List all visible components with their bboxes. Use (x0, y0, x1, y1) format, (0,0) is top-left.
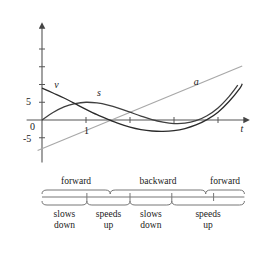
direction-bracket-1 (110, 190, 205, 194)
direction-bracket-0 (42, 190, 110, 194)
acceleration-line (38, 66, 243, 150)
y-tick-label-0: 0 (30, 122, 35, 132)
speed-bracket-1 (87, 201, 130, 205)
speed-band-line1-3: speeds (180, 209, 236, 220)
direction-bracket-2 (206, 190, 245, 194)
direction-band-label-1: backward (128, 177, 188, 187)
t-axis-label: t (240, 124, 243, 134)
direction-band-label-2: forward (195, 177, 255, 187)
speed-band-line2-2: down (123, 220, 179, 231)
position-curve-label: s (97, 88, 101, 98)
position-curve (42, 85, 238, 123)
y-tick-label-5: 5 (26, 97, 31, 107)
speed-band-label-2: slowsdown (123, 209, 179, 231)
speed-band-line2-3: up (180, 220, 236, 231)
speed-bracket-3 (172, 201, 245, 205)
x-tick-label-1: 1 (84, 126, 89, 136)
speed-bracket-2 (130, 201, 172, 205)
acceleration-line-label: a (194, 77, 199, 87)
speed-bracket-0 (42, 201, 87, 205)
curves-group (38, 66, 243, 150)
direction-band-label-0: forward (46, 177, 106, 187)
y-tick-label-minus-5: -5 (23, 134, 31, 144)
velocity-curve-label: v (54, 80, 58, 90)
interval-brackets-group (42, 190, 244, 205)
motion-graph-figure: 5 0 -5 1 t v s a forwardbackwardforward … (0, 0, 267, 255)
speed-band-line1-2: slows (123, 209, 179, 220)
speed-band-label-3: speedsup (180, 209, 236, 231)
